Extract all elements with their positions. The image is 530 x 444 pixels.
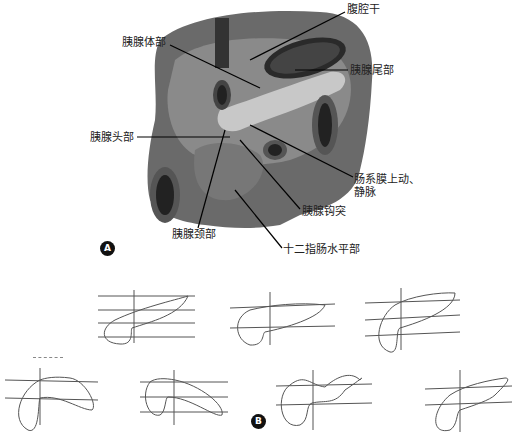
figure-badge-b: B [251,414,266,429]
shape-1 [98,290,195,344]
scale-bar [33,357,63,358]
label-pancreas-body: 胰腺体部 [122,36,166,49]
figure-badge-a: A [100,241,115,256]
label-uncinate-process: 胰腺钩突 [302,205,346,218]
shape-5 [140,370,228,425]
anatomy-illustration [0,0,530,444]
label-celiac-trunk: 腹腔干 [347,3,380,16]
label-pancreas-neck: 胰腺颈部 [172,228,216,241]
label-pancreas-tail: 胰腺尾部 [350,64,394,77]
shape-3 [365,288,460,352]
label-sma-smv-line1: 肠系膜上动、 [354,173,420,186]
shape-2 [230,292,335,345]
organ-illustration [148,11,373,228]
label-duodenum-horizontal: 十二指肠水平部 [283,243,360,256]
label-sma-smv-line2: 静脉 [354,186,376,199]
label-pancreas-head: 胰腺头部 [90,131,134,144]
shape-4 [5,368,98,431]
pancreas-shape-schematics [5,288,512,432]
shape-6 [276,370,372,430]
shape-7 [425,370,512,432]
